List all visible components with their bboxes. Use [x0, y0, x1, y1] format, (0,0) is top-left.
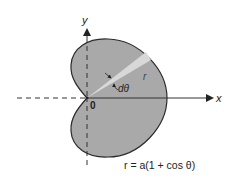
x-axis-label: x — [216, 93, 222, 104]
equation-label: r = a(1 + cos θ) — [124, 160, 195, 171]
y-axis-label: y — [82, 15, 88, 26]
cardioid-diagram — [0, 0, 231, 179]
radius-label: r — [143, 72, 146, 82]
origin-label: 0 — [90, 101, 96, 111]
dtheta-label: dθ — [118, 84, 129, 94]
origin-point — [86, 97, 89, 100]
